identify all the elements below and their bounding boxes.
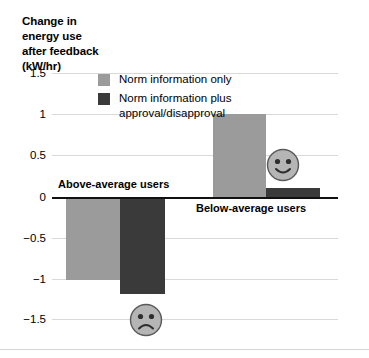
group-label-above-average: Above-average users xyxy=(58,178,169,190)
ytick-label: −1.5 xyxy=(23,313,46,325)
ytick-label: −1 xyxy=(33,273,46,285)
ytick-label: 0 xyxy=(40,191,46,203)
ytick-label: 1.5 xyxy=(30,67,46,79)
bar-above-average-norm-only xyxy=(66,197,120,280)
bar-below-average-norm-plus-approval xyxy=(266,188,320,197)
legend-item-norm-only: Norm information only xyxy=(98,72,231,87)
chart-title: Change in energy use after feedback (kW/… xyxy=(22,14,99,74)
gridline xyxy=(52,319,338,320)
frowning-face-icon xyxy=(129,303,163,337)
bottom-divider xyxy=(0,349,369,350)
legend-label: Norm information plus approval/disapprov… xyxy=(119,91,231,121)
legend-label: Norm information only xyxy=(119,72,231,87)
ytick-label: 0.5 xyxy=(30,149,46,161)
legend-swatch-icon xyxy=(98,74,110,86)
legend: Norm information only Norm information p… xyxy=(98,72,231,125)
legend-item-norm-plus-approval: Norm information plus approval/disapprov… xyxy=(98,91,231,121)
bar-below-average-norm-only xyxy=(213,114,266,197)
ytick-label: 1 xyxy=(40,108,46,120)
energy-use-bar-chart: Change in energy use after feedback (kW/… xyxy=(0,0,369,358)
bar-above-average-norm-plus-approval xyxy=(120,197,165,294)
smiling-face-icon xyxy=(266,148,300,182)
zero-axis-line xyxy=(52,197,338,199)
group-label-below-average: Below-average users xyxy=(196,202,306,214)
ytick-label: −0.5 xyxy=(23,232,46,244)
legend-swatch-icon xyxy=(98,93,110,105)
